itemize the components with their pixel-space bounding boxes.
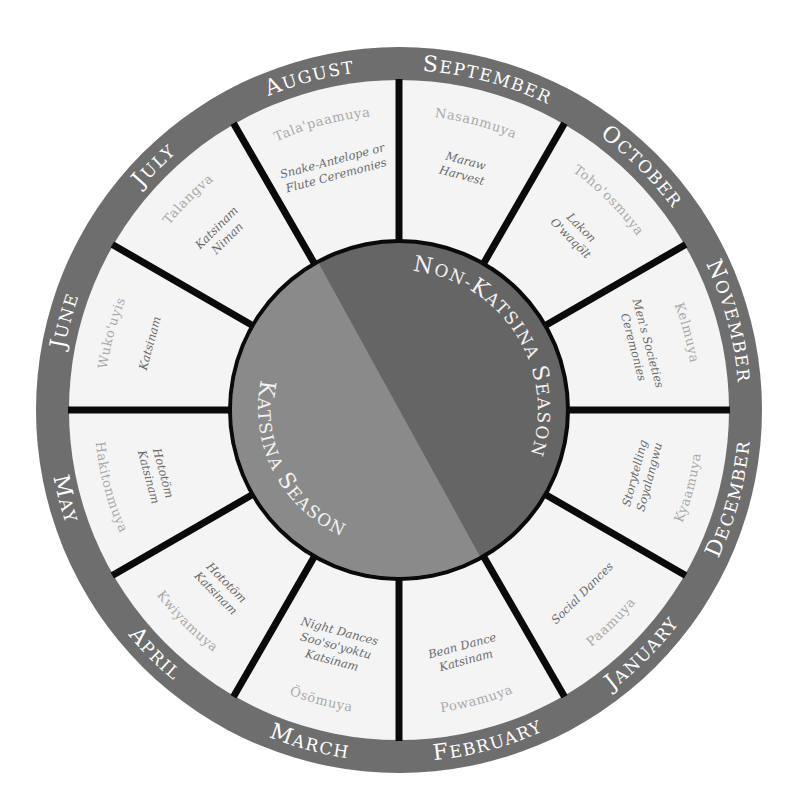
hopi-calendar-wheel: SEPTEMBEROCTOBERNOVEMBERDECEMBERJANUARYF… (0, 0, 793, 810)
